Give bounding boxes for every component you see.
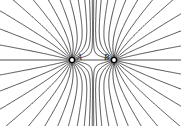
field-line bbox=[7, 0, 70, 58]
field-line bbox=[104, 0, 112, 58]
field-line bbox=[74, 63, 82, 127]
charge-a bbox=[69, 57, 74, 62]
field-line bbox=[104, 63, 112, 127]
charge-label-b: B bbox=[104, 53, 109, 62]
field-lines-diagram: A B bbox=[0, 0, 181, 126]
field-line bbox=[0, 61, 69, 76]
field-lines bbox=[0, 0, 181, 126]
field-line bbox=[113, 0, 128, 57]
field-line bbox=[0, 63, 70, 127]
field-line bbox=[29, 0, 71, 57]
charge-label-a: A bbox=[77, 53, 82, 62]
charge-b bbox=[111, 57, 116, 62]
field-line bbox=[115, 0, 157, 57]
field-line bbox=[109, 63, 119, 126]
field-line bbox=[117, 61, 181, 75]
field-line bbox=[0, 44, 69, 59]
field-line bbox=[67, 63, 77, 126]
field-line bbox=[58, 0, 73, 57]
field-line bbox=[74, 0, 82, 58]
field-line bbox=[117, 45, 181, 59]
field-line bbox=[116, 0, 179, 58]
